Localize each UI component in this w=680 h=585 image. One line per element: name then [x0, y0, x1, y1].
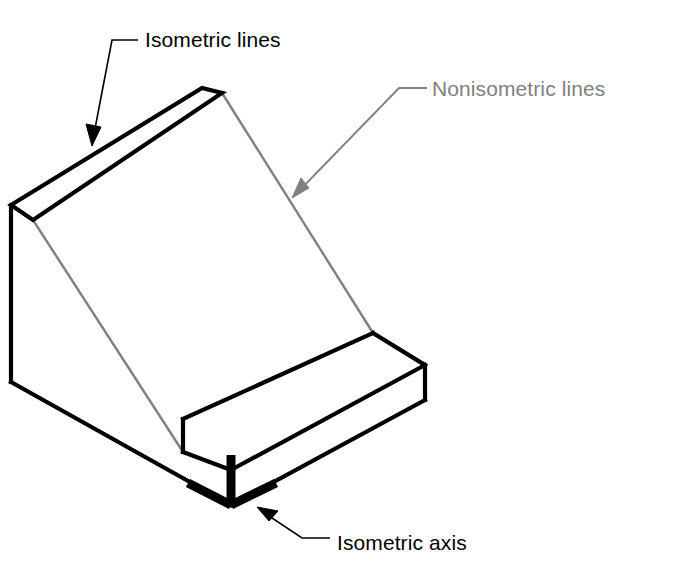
- nonisometric-lines-arrowhead-icon: [292, 178, 309, 198]
- isometric-axis-arrowhead-icon: [257, 507, 278, 521]
- isometric-axis-marker-group: [188, 455, 276, 505]
- label-nonisometric-lines: Nonisometric lines: [432, 77, 605, 100]
- technical-drawing-canvas: Isometric lines Nonisometric lines Isome…: [0, 0, 680, 585]
- isometric-axis-right-arm: [231, 483, 276, 505]
- nonisometric-edge-inclined-right: [222, 93, 373, 333]
- isometric-edge-top-face-outline: [11, 88, 222, 220]
- isometric-edge-base-top-left: [183, 452, 231, 470]
- isometric-lines-leader-line: [93, 40, 138, 139]
- isometric-lines-arrowhead-icon: [86, 124, 101, 146]
- nonisometric-edge-inclined-left: [33, 220, 183, 452]
- nonisometric-lines-leader-line: [296, 88, 427, 194]
- isometric-drawing-figure: Isometric lines Nonisometric lines Isome…: [0, 0, 680, 585]
- nonisometric-edge-group: [33, 93, 373, 452]
- label-isometric-axis: Isometric axis: [337, 531, 467, 554]
- isometric-edge-group: [11, 88, 425, 505]
- isometric-edge-base-far-right: [373, 333, 425, 365]
- isometric-axis-left-arm: [188, 483, 231, 505]
- nonisometric-lines-leader-group: [292, 88, 427, 198]
- isometric-edge-base-far-top: [183, 333, 373, 419]
- isometric-axis-leader-group: [257, 507, 330, 538]
- label-isometric-lines: Isometric lines: [145, 28, 281, 51]
